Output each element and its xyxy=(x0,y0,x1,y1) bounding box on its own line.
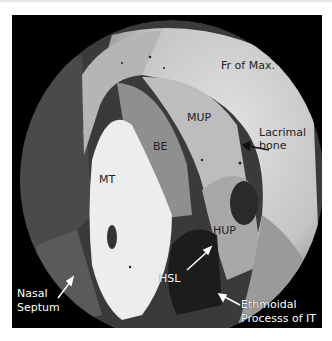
label-mup: MUP xyxy=(187,111,211,124)
label-ethmoidal-line2: Processs of IT xyxy=(241,312,316,325)
label-nasal-septum-line1: Nasal xyxy=(17,287,48,300)
label-fr-of-max: Fr of Max. xyxy=(221,59,275,72)
label-mt: MT xyxy=(99,173,115,186)
label-lacrimal-bone-line1: Lacrimal xyxy=(259,126,306,139)
label-lacrimal-bone-line2: bone xyxy=(259,139,286,152)
label-ethmoidal-line1: Ethmoidal xyxy=(241,298,297,311)
label-hup: HUP xyxy=(213,224,236,237)
label-be: BE xyxy=(153,140,168,153)
label-nasal-septum-line2: Septum xyxy=(17,301,60,314)
top-divider xyxy=(0,0,332,2)
label-hsl: HSL xyxy=(159,272,180,285)
endoscopic-image: Fr of Max. MUP Lacrimal bone BE MT HUP H… xyxy=(12,15,322,328)
